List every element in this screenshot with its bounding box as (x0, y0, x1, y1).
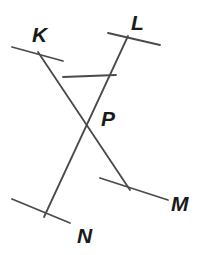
tick-mark-M (100, 178, 168, 200)
segment-KL-connector (63, 75, 116, 77)
label-p: P (101, 107, 116, 130)
tick-marks-group (12, 33, 168, 223)
label-k: K (32, 23, 49, 46)
label-l: L (131, 11, 144, 34)
line-K-M (38, 52, 130, 190)
tick-mark-N (12, 199, 70, 223)
geometry-canvas: KLPMN (0, 0, 208, 255)
line-L-N (44, 36, 128, 217)
vertex-labels-group: KLPMN (32, 11, 189, 247)
line-segments-group (38, 36, 130, 217)
label-m: M (171, 192, 189, 215)
label-n: N (77, 224, 93, 247)
geometry-diagram: KLPMN (0, 0, 208, 255)
tick-mark-L (108, 33, 160, 45)
tick-mark-K (12, 47, 63, 61)
